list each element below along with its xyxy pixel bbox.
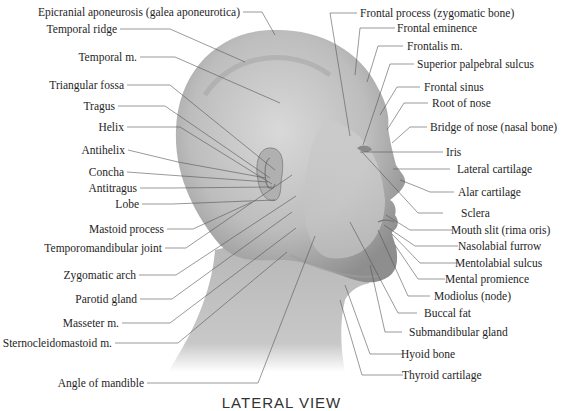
label-alar-cartilage: Alar cartilage — [458, 186, 521, 199]
label-sclera: Sclera — [461, 207, 490, 220]
label-sternocleidomastoid-m: Sternocleidomastoid m. — [3, 337, 112, 350]
label-lateral-cartilage: Lateral cartilage — [457, 163, 532, 176]
label-temporal-ridge: Temporal ridge — [47, 23, 117, 36]
label-bridge-of-nose: Bridge of nose (nasal bone) — [430, 121, 557, 134]
label-mentolabial-sulcus: Mentolabial sulcus — [455, 257, 542, 270]
label-angle-of-mandible: Angle of mandible — [58, 377, 144, 390]
label-helix: Helix — [98, 121, 124, 134]
label-hyoid-bone: Hyoid bone — [401, 348, 455, 361]
label-mastoid-process: Mastoid process — [89, 223, 164, 236]
label-lobe: Lobe — [115, 198, 139, 211]
label-frontal-sinus: Frontal sinus — [424, 81, 484, 94]
label-mental-promience: Mental promience — [445, 273, 529, 286]
label-submandibular-gland: Submandibular gland — [409, 326, 508, 339]
label-temporomandibular-joint: Temporomandibular joint — [44, 242, 162, 255]
label-nasolabial-furrow: Nasolabial furrow — [458, 240, 541, 253]
label-mouth-slit: Mouth slit (rima oris) — [451, 224, 550, 237]
label-antihelix: Antihelix — [82, 144, 125, 157]
label-parotid-gland: Parotid gland — [75, 293, 137, 306]
label-iris: Iris — [446, 146, 461, 159]
label-temporal-m: Temporal m. — [78, 51, 137, 64]
label-thyroid-cartilage: Thyroid cartilage — [402, 369, 482, 382]
view-caption: LATERAL VIEW — [0, 394, 563, 411]
label-frontal-process: Frontal process (zygomatic bone) — [360, 7, 514, 20]
label-modiolus: Modiolus (node) — [434, 290, 511, 303]
label-zygomatic-arch: Zygomatic arch — [64, 269, 136, 282]
label-buccal-fat: Buccal fat — [424, 307, 471, 320]
label-root-of-nose: Root of nose — [432, 97, 491, 110]
label-antitragus: Antitragus — [88, 182, 137, 195]
label-superior-palpebral-sulcus: Superior palpebral sulcus — [417, 58, 534, 71]
label-frontal-eminence: Frontal eminence — [397, 22, 477, 35]
label-epicranial-aponeurosis: Epicranial aponeurosis (galea aponeuroti… — [38, 6, 240, 19]
label-frontalis-m: Frontalis m. — [407, 40, 463, 53]
label-masseter-m: Masseter m. — [63, 317, 119, 330]
label-tragus: Tragus — [83, 100, 115, 113]
anatomy-diagram: Epicranial aponeurosis (galea aponeuroti… — [0, 0, 563, 411]
label-concha: Concha — [89, 166, 124, 179]
label-triangular-fossa: Triangular fossa — [49, 79, 124, 92]
